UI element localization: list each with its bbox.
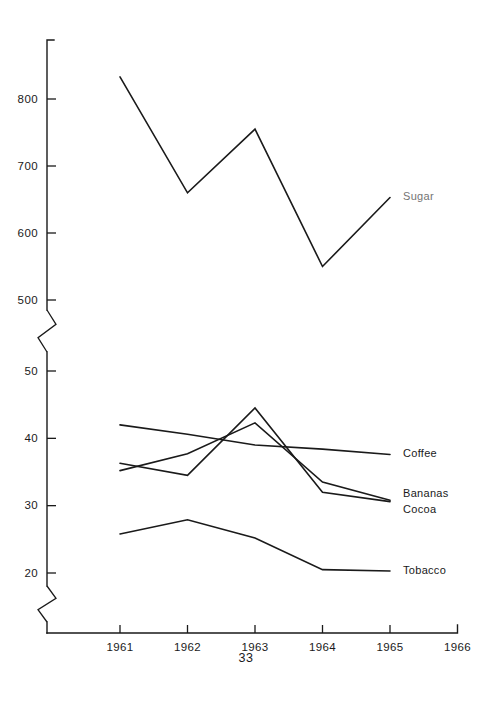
x-tick-label-1961: 1961 — [106, 641, 133, 653]
series-line-sugar — [120, 77, 390, 267]
y-tick-label-600: 600 — [18, 227, 38, 239]
series-line-bananas — [120, 423, 390, 500]
x-tick-label-1966: 1966 — [444, 641, 471, 653]
y-axis-line — [47, 40, 54, 633]
series-label-coffee: Coffee — [403, 447, 437, 459]
series-label-cocoa: Cocoa — [403, 503, 437, 515]
x-axis-line — [47, 625, 458, 633]
series-lines — [120, 77, 390, 571]
y-tick-label-50: 50 — [24, 365, 38, 377]
series-label-tobacco: Tobacco — [403, 564, 446, 576]
series-label-sugar: Sugar — [403, 190, 434, 202]
series-labels: SugarCoffeeBananasCocoaTobacco — [403, 190, 449, 575]
y-tick-label-700: 700 — [18, 160, 38, 172]
line-chart: 50060070080020304050 1961196219631964196… — [0, 0, 492, 702]
y-tick-label-800: 800 — [18, 93, 38, 105]
y-tick-label-500: 500 — [18, 294, 38, 306]
series-label-bananas: Bananas — [403, 487, 449, 499]
series-line-coffee — [120, 425, 390, 455]
page-number: 33 — [238, 651, 253, 665]
x-tick-label-1964: 1964 — [309, 641, 336, 653]
x-axis: 196119621963196419651966 — [47, 625, 471, 653]
x-axis-ticks: 196119621963196419651966 — [106, 625, 471, 653]
y-axis: 50060070080020304050 — [18, 40, 56, 633]
y-axis-ticks: 50060070080020304050 — [18, 93, 56, 579]
y-tick-label-40: 40 — [24, 432, 38, 444]
x-tick-label-1962: 1962 — [174, 641, 201, 653]
series-line-tobacco — [120, 520, 390, 571]
x-tick-label-1965: 1965 — [376, 641, 403, 653]
axis-break-mark-2 — [38, 586, 56, 622]
y-tick-label-20: 20 — [24, 567, 38, 579]
chart-container: 50060070080020304050 1961196219631964196… — [0, 0, 492, 702]
y-tick-label-30: 30 — [24, 499, 38, 511]
axis-break-mark-1 — [38, 310, 56, 352]
